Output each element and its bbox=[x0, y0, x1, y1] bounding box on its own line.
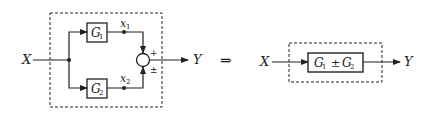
x2-signal-point bbox=[122, 86, 126, 90]
block-diagram-canvas: X G 1 G 2 x 1 x 2 bbox=[0, 0, 430, 116]
right-input-label: X bbox=[259, 54, 270, 69]
equivalence-arrow-icon: ⇒ bbox=[220, 52, 232, 68]
block-g1-plus-minus-g2: G 1 ± G 2 bbox=[308, 53, 363, 72]
branch-to-g2 bbox=[69, 60, 87, 88]
x1-label: x 1 bbox=[120, 17, 130, 31]
svg-text:2: 2 bbox=[350, 63, 354, 71]
left-output-label: Y bbox=[193, 52, 203, 67]
block-g2: G 2 bbox=[87, 79, 107, 98]
x2-label: x 2 bbox=[120, 72, 130, 86]
sum-sign-bottom: ± bbox=[150, 65, 158, 75]
sum-sign-top: + bbox=[150, 48, 158, 58]
parallel-diagram: X G 1 G 2 x 1 x 2 bbox=[21, 13, 203, 107]
right-output-label: Y bbox=[404, 54, 414, 69]
equivalent-diagram: X G 1 ± G 2 Y bbox=[259, 43, 414, 82]
svg-text:±: ± bbox=[331, 57, 340, 70]
g1-output-line bbox=[107, 32, 143, 53]
block-g1: G 1 bbox=[87, 23, 107, 42]
svg-text:1: 1 bbox=[322, 63, 326, 71]
branch-to-g1 bbox=[69, 32, 87, 60]
svg-text:2: 2 bbox=[99, 89, 103, 97]
left-input-label: X bbox=[21, 52, 32, 67]
svg-text:1: 1 bbox=[126, 23, 130, 31]
svg-text:2: 2 bbox=[126, 78, 130, 86]
svg-text:1: 1 bbox=[99, 33, 103, 41]
summing-junction bbox=[137, 54, 150, 67]
